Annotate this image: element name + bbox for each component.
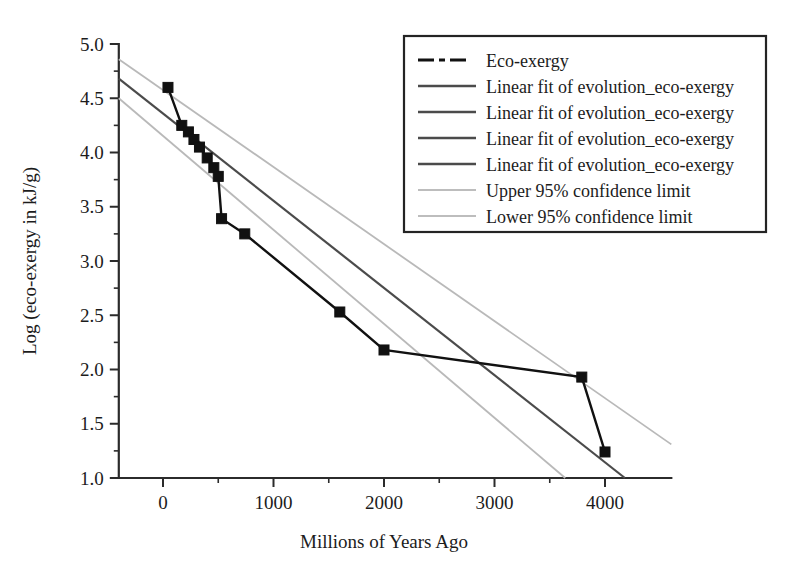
data-point-marker [163, 82, 173, 92]
data-point-marker [379, 345, 389, 355]
data-point-marker [240, 229, 250, 239]
x-axis-tick-labels: 01000200030004000 [158, 492, 624, 513]
y-tick-label: 3.5 [80, 196, 104, 217]
y-tick-label: 1.0 [80, 468, 104, 489]
legend-label: Lower 95% confidence limit [486, 207, 692, 227]
y-axis-title: Log (eco-exergy in kJ/g) [19, 167, 41, 355]
y-tick-label: 2.5 [80, 305, 104, 326]
data-point-marker [600, 447, 610, 457]
x-tick-label: 1000 [255, 492, 293, 513]
legend-label: Linear fit of evolution_eco-exergy [486, 103, 734, 123]
x-axis-title: Millions of Years Ago [300, 531, 468, 552]
data-point-marker [194, 142, 204, 152]
y-tick-label: 4.5 [80, 88, 104, 109]
x-tick-label: 0 [158, 492, 168, 513]
chart-legend: Eco-exergyLinear fit of evolution_eco-ex… [404, 36, 766, 232]
x-tick-label: 4000 [586, 492, 624, 513]
legend-label: Upper 95% confidence limit [486, 181, 690, 201]
y-tick-label: 4.0 [80, 142, 104, 163]
legend-label: Linear fit of evolution_eco-exergy [486, 155, 734, 175]
data-point-marker [577, 372, 587, 382]
legend-label: Linear fit of evolution_eco-exergy [486, 129, 734, 149]
y-tick-label: 3.0 [80, 251, 104, 272]
x-tick-label: 2000 [365, 492, 403, 513]
data-point-marker [202, 153, 212, 163]
data-point-marker [335, 307, 345, 317]
y-tick-label: 1.5 [80, 413, 104, 434]
y-axis-tick-labels: 1.01.52.02.53.03.54.04.55.0 [80, 34, 104, 489]
legend-label: Eco-exergy [486, 51, 569, 71]
legend-label: Linear fit of evolution_eco-exergy [486, 77, 734, 97]
x-tick-label: 3000 [476, 492, 514, 513]
chart-figure: 1.01.52.02.53.03.54.04.55.0 010002000300… [0, 0, 808, 574]
y-tick-label: 5.0 [80, 34, 104, 55]
x-axis-ticks [163, 478, 605, 487]
data-point-marker [217, 214, 227, 224]
y-tick-label: 2.0 [80, 359, 104, 380]
y-axis-ticks [110, 44, 119, 478]
chart-plot-area: 1.01.52.02.53.03.54.04.55.0 010002000300… [0, 0, 808, 574]
data-point-marker [213, 171, 223, 181]
